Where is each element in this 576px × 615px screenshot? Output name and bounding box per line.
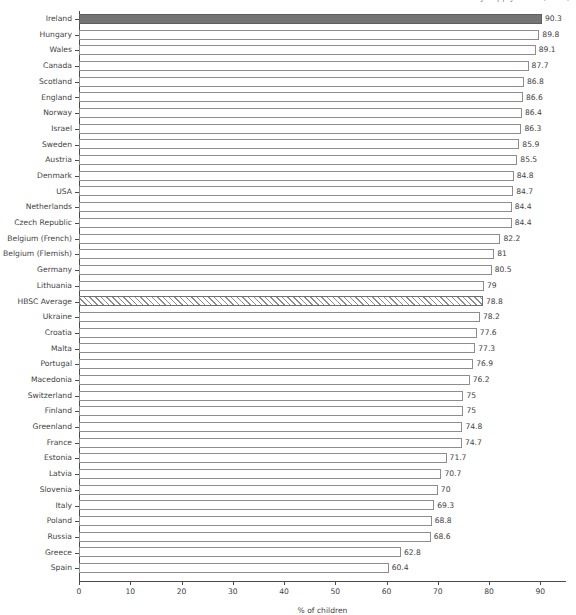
category-label: Malta — [51, 345, 72, 353]
bar-row: Denmark84.8 — [79, 168, 566, 184]
x-axis-tick — [130, 581, 131, 585]
category-label: Latvia — [49, 470, 72, 478]
y-axis-tick — [75, 82, 79, 83]
y-axis-tick — [75, 35, 79, 36]
bar — [79, 186, 513, 196]
category-label: Russia — [48, 533, 72, 541]
bar-value-label: 85.5 — [520, 156, 537, 164]
x-axis-tick — [489, 581, 490, 585]
category-label: Macedonia — [31, 376, 72, 384]
bar — [79, 124, 521, 134]
bar-row: Austria85.5 — [79, 152, 566, 168]
category-label: HBSC Average — [17, 298, 72, 306]
bar — [79, 500, 434, 510]
category-label: Switzerland — [28, 392, 72, 400]
y-axis-tick — [75, 537, 79, 538]
category-label: Greenland — [33, 423, 72, 431]
y-axis-tick — [75, 506, 79, 507]
y-axis-tick — [75, 97, 79, 98]
bar-row: Switzerland75 — [79, 388, 566, 404]
x-axis-tick — [284, 581, 285, 585]
category-label: Slovenia — [40, 486, 72, 494]
y-axis-tick — [75, 254, 79, 255]
bar — [79, 139, 519, 149]
bar-value-label: 86.8 — [527, 78, 544, 86]
category-label: Netherlands — [26, 203, 72, 211]
bar — [79, 281, 484, 291]
category-label: Norway — [43, 109, 72, 117]
bar-row: Slovenia70 — [79, 482, 566, 498]
category-label: Hungary — [40, 31, 72, 39]
bar-value-label: 90.3 — [545, 15, 562, 23]
chart-title: by supply hours (2014) — [475, 0, 570, 2]
category-label: Finland — [45, 407, 72, 415]
bar-row: Scotland86.8 — [79, 74, 566, 90]
x-axis-tick-label: 60 — [382, 588, 392, 596]
y-axis-tick — [75, 286, 79, 287]
bar — [79, 249, 494, 259]
category-label: Portugal — [41, 360, 72, 368]
category-label: Canada — [43, 62, 72, 70]
bar-value-label: 74.8 — [465, 423, 482, 431]
bar-row: Spain60.4 — [79, 560, 566, 576]
bar-row: Norway86.4 — [79, 105, 566, 121]
bar-row: Croatia77.6 — [79, 325, 566, 341]
x-axis-tick — [182, 581, 183, 585]
bar-value-label: 86.6 — [526, 94, 543, 102]
category-label: Denmark — [37, 172, 72, 180]
bar-value-label: 86.4 — [525, 109, 542, 117]
bar-value-label: 85.9 — [522, 141, 539, 149]
bar-value-label: 68.6 — [434, 533, 451, 541]
category-label: Poland — [47, 517, 72, 525]
y-axis-tick — [75, 302, 79, 303]
bar-row: Belgium (French)82.2 — [79, 231, 566, 247]
x-axis-tick — [387, 581, 388, 585]
y-axis-tick — [75, 443, 79, 444]
plot-area: Ireland90.3Hungary89.8Wales89.1Canada87.… — [79, 11, 566, 582]
x-axis-tick — [233, 581, 234, 585]
bar-row: Ireland90.3 — [79, 11, 566, 27]
bar-value-label: 77.6 — [480, 329, 497, 337]
y-axis-tick — [75, 568, 79, 569]
category-label: Germany — [37, 266, 72, 274]
bar — [79, 532, 431, 542]
bar-row: Greenland74.8 — [79, 419, 566, 435]
y-axis-tick — [75, 239, 79, 240]
bar-value-label: 89.8 — [542, 31, 559, 39]
bar-row: Italy69.3 — [79, 498, 566, 514]
bar-value-label: 84.8 — [517, 172, 534, 180]
y-axis-tick — [75, 521, 79, 522]
bar-row: Wales89.1 — [79, 42, 566, 58]
y-axis-tick — [75, 349, 79, 350]
bar-row: Greece62.8 — [79, 545, 566, 561]
bar-row: Netherlands84.4 — [79, 199, 566, 215]
bar-value-label: 78.2 — [483, 313, 500, 321]
bar-value-label: 80.5 — [495, 266, 512, 274]
bar-row: Lithuania79 — [79, 278, 566, 294]
bar-value-label: 71.7 — [450, 454, 467, 462]
y-axis-tick — [75, 553, 79, 554]
bar-value-label: 78.8 — [486, 298, 503, 306]
x-axis-tick-label: 20 — [177, 588, 187, 596]
bar — [79, 469, 441, 479]
x-axis-ticks: 0102030405060708090 — [79, 581, 566, 582]
x-axis-tick-label: 30 — [228, 588, 238, 596]
x-axis-tick-label: 90 — [536, 588, 546, 596]
bar-row: Poland68.8 — [79, 513, 566, 529]
x-axis-tick-label: 70 — [433, 588, 443, 596]
x-axis-tick-label: 80 — [484, 588, 494, 596]
x-axis-title: % of children — [79, 606, 566, 615]
bar-row: Czech Republic84.4 — [79, 215, 566, 231]
bar — [79, 422, 462, 432]
y-axis-tick — [75, 176, 79, 177]
y-axis-tick — [75, 396, 79, 397]
bar-value-label: 77.3 — [478, 345, 495, 353]
bar — [79, 438, 462, 448]
bar — [79, 108, 522, 118]
bar-value-label: 74.7 — [465, 439, 482, 447]
bar-value-label: 62.8 — [404, 549, 421, 557]
category-label: Wales — [50, 46, 72, 54]
bar — [79, 375, 470, 385]
bar-value-label: 76.2 — [473, 376, 490, 384]
bar-value-label: 84.4 — [515, 203, 532, 211]
